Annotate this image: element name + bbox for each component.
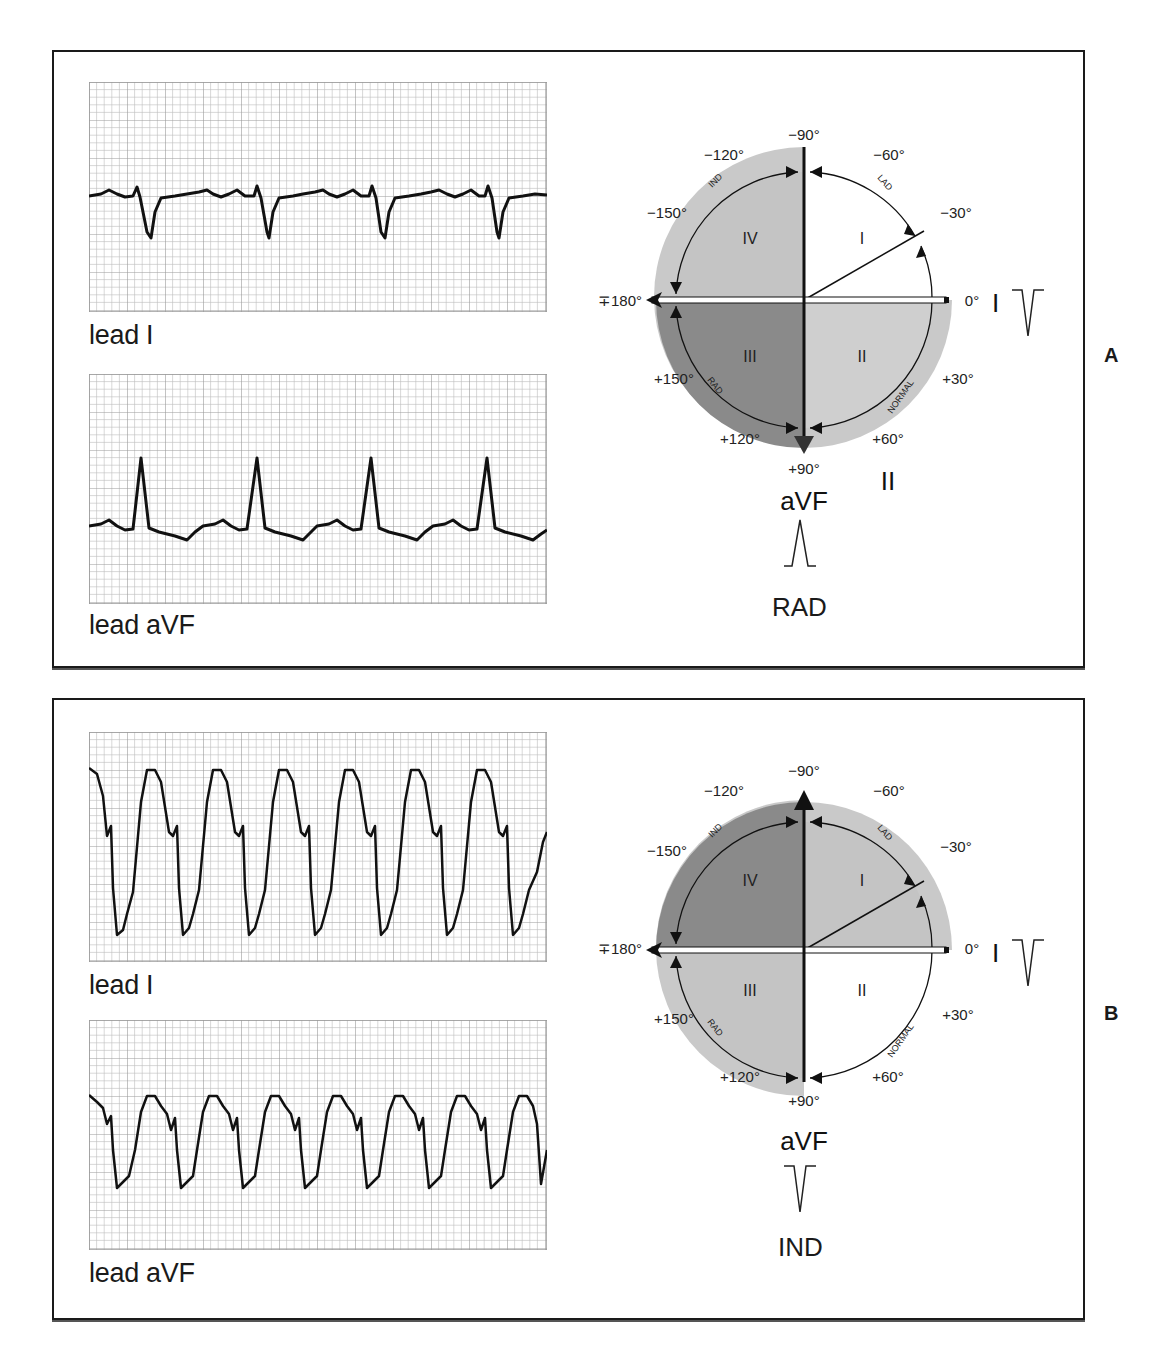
ecg-grid-lead-i [89,732,547,962]
quadrant-ii [804,300,932,428]
axis-wheel-b: I II III IV IND LAD RAD NORMAL −90° −120… [574,722,1014,1162]
angle-label: +90° [788,460,819,477]
angle-label: ∓180° [598,292,642,309]
angle-label: 0° [965,292,979,309]
angle-label: +30° [942,1006,973,1023]
ecg-strip-lead-avf [89,1020,547,1250]
angle-label: +150° [654,370,694,387]
angle-label: ∓180° [598,940,642,957]
angle-label: 0° [965,940,979,957]
ecg-grid-lead-avf [89,1020,547,1250]
negative-deflection-icon [1010,282,1050,342]
angle-label: −120° [704,782,744,799]
axis-result-label: IND [778,1232,823,1263]
lead-i-axis-end [944,297,949,303]
lead-ii-label: II [881,466,895,496]
angle-label: +90° [788,1092,819,1109]
panel-letter-a: A [1104,344,1118,367]
panel-a: lead I lead aVF [52,50,1085,668]
angle-label: −30° [940,838,971,855]
axis-lead-label-avf: aVF [780,1126,828,1156]
axis-wheel-a: I II III IV IND LAD RAD NORMAL −90° −120… [574,72,1014,512]
angle-label: −90° [788,762,819,779]
angle-label: +120° [720,1068,760,1085]
axis-result-label: RAD [772,592,827,623]
quadrant-label-ii: II [858,348,867,365]
quadrant-ii [804,950,932,1078]
lead-i-axis-end [944,947,949,953]
angle-label: +60° [872,1068,903,1085]
angle-label: −30° [940,204,971,221]
quadrant-label-i: I [860,872,864,889]
quadrant-label-iii: III [743,982,756,999]
angle-label: +60° [872,430,903,447]
axis-lead-label-i: I [992,938,999,968]
quadrant-label-iv: IV [742,230,757,247]
quadrant-label-i: I [860,230,864,247]
angle-label: +150° [654,1010,694,1027]
quadrant-i [804,172,932,300]
angle-label: −150° [647,842,687,859]
angle-label: +30° [942,370,973,387]
lead-label-avf: lead aVF [89,1258,195,1289]
ecg-grid-lead-i [89,82,547,312]
panel-b: lead I lead aVF [52,698,1085,1320]
quadrant-iv [676,172,804,300]
lead-i-axis [652,947,946,953]
quadrant-i [804,822,932,950]
lead-label-i: lead I [89,320,153,351]
ecg-strip-lead-i [89,732,547,962]
axis-lead-label-i: I [992,288,999,318]
ecg-strip-lead-i [89,82,547,312]
negative-deflection-icon [782,1160,822,1220]
arrow-minus90-icon [794,790,814,810]
angle-label: −90° [788,126,819,143]
axis-lead-label-avf: aVF [780,486,828,512]
lead-label-avf: lead aVF [89,610,195,641]
quadrant-label-iii: III [743,348,756,365]
lead-label-i: lead I [89,970,153,1001]
lead-i-axis [652,297,946,303]
angle-label: −60° [873,782,904,799]
ecg-grid-lead-avf [89,374,547,604]
angle-label: +120° [720,430,760,447]
angle-label: −60° [873,146,904,163]
positive-deflection-icon [782,514,822,574]
negative-deflection-icon [1010,932,1050,992]
ecg-strip-lead-avf [89,374,547,604]
quadrant-iii [676,950,804,1078]
quadrant-label-ii: II [858,982,867,999]
panel-letter-b: B [1104,1002,1118,1025]
angle-label: −120° [704,146,744,163]
quadrant-label-iv: IV [742,872,757,889]
angle-label: −150° [647,204,687,221]
arc-label-lad: LAD [876,173,895,193]
